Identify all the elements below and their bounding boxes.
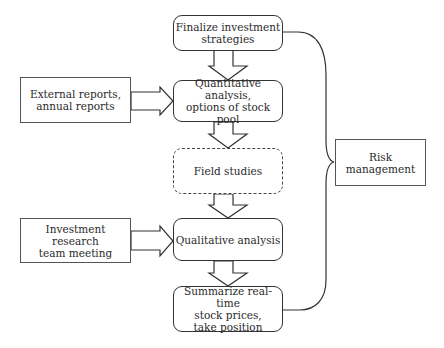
- input-label: Investment research team meeting: [21, 223, 130, 259]
- arrow-down-1: [209, 50, 247, 80]
- arrow-right-1: [131, 87, 173, 115]
- arrow-down-2: [209, 122, 247, 148]
- step-label: Quantitative analysis, options of stock …: [174, 77, 282, 125]
- step-label: Field studies: [194, 165, 262, 177]
- arrow-down-3: [209, 194, 247, 218]
- risk-brace: [283, 32, 334, 310]
- step-quantitative-analysis: Quantitative analysis, options of stock …: [173, 80, 283, 122]
- risk-management-box: Risk management: [335, 139, 426, 186]
- arrow-down-4: [209, 261, 247, 286]
- input-external-reports: External reports, annual reports: [20, 77, 131, 123]
- step-qualitative-analysis: Qualitative analysis: [173, 218, 283, 261]
- arrow-right-2: [131, 226, 173, 256]
- input-label: External reports, annual reports: [30, 88, 121, 112]
- step-label: Qualitative analysis: [176, 234, 281, 246]
- step-finalize-strategies: Finalize investment strategies: [173, 15, 283, 51]
- step-label: Finalize investment strategies: [176, 21, 281, 45]
- input-team-meeting: Investment research team meeting: [20, 218, 131, 263]
- step-label: Summarize real-time stock prices, take p…: [174, 285, 282, 333]
- risk-label: Risk management: [346, 151, 415, 175]
- step-summarize-take-position: Summarize real-time stock prices, take p…: [173, 286, 283, 332]
- step-field-studies: Field studies: [173, 148, 283, 194]
